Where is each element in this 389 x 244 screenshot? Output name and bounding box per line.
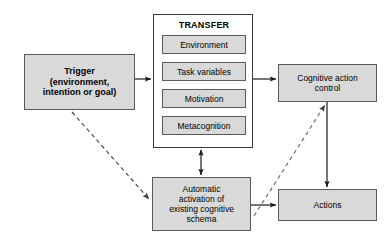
transfer-item-label: Metacognition: [178, 121, 231, 131]
transfer-item-environment[interactable]: Environment: [162, 35, 246, 54]
edge-trigger-to-schema: [72, 112, 149, 199]
node-trigger[interactable]: Trigger (environment, intention or goal): [24, 54, 135, 110]
transfer-item-label: Motivation: [185, 94, 224, 104]
transfer-item-metacognition[interactable]: Metacognition: [162, 116, 246, 135]
node-actions-label: Actions: [312, 200, 344, 210]
node-trigger-label: Trigger (environment, intention or goal): [41, 66, 119, 98]
transfer-item-motivation[interactable]: Motivation: [162, 89, 246, 108]
node-transfer-group[interactable]: TRANSFER Environment Task variables Moti…: [153, 14, 253, 148]
node-actions[interactable]: Actions: [278, 189, 377, 221]
transfer-item-label: Environment: [180, 40, 228, 50]
diagram-canvas: Automatic activation (dashed) --> Cognit…: [0, 0, 389, 244]
node-automatic-activation[interactable]: Automatic activation of existing cogniti…: [152, 177, 251, 231]
node-cognitive-action-control-label: Cognitive action control: [295, 73, 359, 93]
transfer-item-task-variables[interactable]: Task variables: [162, 62, 246, 81]
transfer-item-label: Task variables: [177, 67, 231, 77]
transfer-group-title: TRANSFER: [154, 20, 254, 30]
node-automatic-activation-label: Automatic activation of existing cogniti…: [167, 184, 236, 224]
node-cognitive-action-control[interactable]: Cognitive action control: [278, 64, 377, 102]
